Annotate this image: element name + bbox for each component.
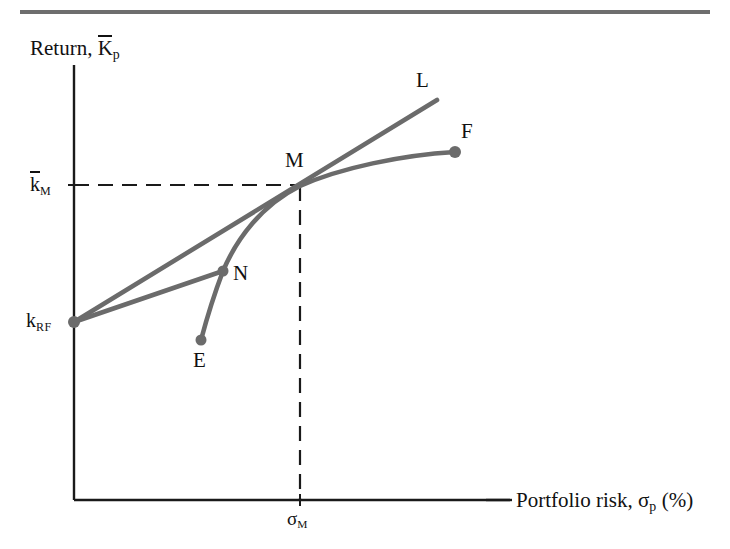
capital-market-line bbox=[74, 100, 437, 322]
point-label-m: M bbox=[285, 150, 304, 171]
x-axis-label-subscript: p bbox=[649, 499, 656, 514]
x-axis-label: Portfolio risk, σp (%) bbox=[516, 490, 693, 511]
overbar-glyph bbox=[30, 171, 39, 173]
x-tick-label-sigmam: σM bbox=[287, 509, 308, 528]
figure-container: Return, Kp Portfolio risk, σp (%) kM kRF… bbox=[0, 0, 730, 549]
point-label-e: E bbox=[193, 350, 206, 371]
krf-symbol: k bbox=[26, 309, 36, 331]
x-axis-label-symbol: σ bbox=[638, 488, 649, 512]
sigmam-symbol: σ bbox=[287, 508, 297, 529]
y-tick-label-km: kM bbox=[30, 174, 51, 194]
x-axis-label-prefix: Portfolio risk, bbox=[516, 488, 638, 512]
efficient-frontier-curve bbox=[201, 152, 455, 340]
point-marker-e bbox=[196, 335, 207, 346]
chart-canvas bbox=[0, 0, 730, 549]
point-label-n: N bbox=[233, 263, 248, 284]
point-marker-f bbox=[449, 146, 461, 158]
point-label-l: L bbox=[416, 70, 429, 91]
y-axis-label-symbol: K bbox=[98, 36, 113, 60]
y-axis-label-subscript: p bbox=[113, 47, 120, 62]
y-point-label-krf: kRF bbox=[26, 310, 51, 330]
km-symbol: k bbox=[30, 173, 40, 195]
x-axis-label-suffix: (%) bbox=[656, 488, 693, 512]
point-label-f: F bbox=[461, 121, 473, 142]
y-axis-label-symbol-overbar: K bbox=[98, 38, 113, 59]
km-symbol-overbar: k bbox=[30, 174, 40, 194]
km-subscript: M bbox=[40, 184, 51, 198]
y-axis-label-prefix: Return, bbox=[30, 36, 98, 60]
overbar-glyph bbox=[98, 35, 112, 37]
y-axis-label: Return, Kp bbox=[30, 38, 120, 59]
point-marker-krf bbox=[68, 316, 80, 328]
sigmam-subscript: M bbox=[297, 518, 308, 530]
point-marker-n bbox=[218, 266, 229, 277]
krf-subscript: RF bbox=[36, 320, 51, 334]
